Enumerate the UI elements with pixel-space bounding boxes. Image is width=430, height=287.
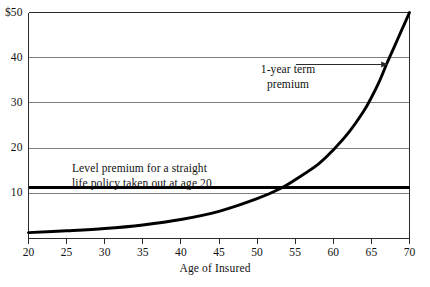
y-tick-label-50: $50 — [0, 7, 23, 19]
term-premium-annotation: 1-year term premium — [232, 62, 344, 92]
x-axis-title: Age of Insured — [0, 262, 430, 274]
chart-figure: $5040302010 2025303540455055606570 Age o… — [0, 0, 430, 287]
x-tick-label-50: 50 — [251, 247, 263, 259]
x-tick-label-55: 55 — [289, 247, 301, 259]
x-tick-label-40: 40 — [175, 247, 187, 259]
x-tick-label-65: 65 — [366, 247, 378, 259]
y-tick-label-10: 10 — [0, 188, 23, 200]
x-tick-label-35: 35 — [137, 247, 149, 259]
data-series-group — [29, 13, 410, 233]
x-tick-label-60: 60 — [327, 247, 339, 259]
series-term-premium-curve — [29, 13, 410, 233]
x-tick-marks-group — [29, 239, 410, 244]
x-tick-label-70: 70 — [404, 247, 416, 259]
y-tick-label-40: 40 — [0, 52, 23, 64]
x-tick-label-45: 45 — [213, 247, 225, 259]
y-tick-label-20: 20 — [0, 142, 23, 154]
x-tick-label-25: 25 — [61, 247, 73, 259]
level-premium-annotation: Level premium for a straight life policy… — [72, 161, 212, 191]
x-tick-label-20: 20 — [23, 247, 35, 259]
y-tick-label-30: 30 — [0, 97, 23, 109]
plot-canvas — [0, 0, 430, 287]
x-tick-label-30: 30 — [99, 247, 111, 259]
